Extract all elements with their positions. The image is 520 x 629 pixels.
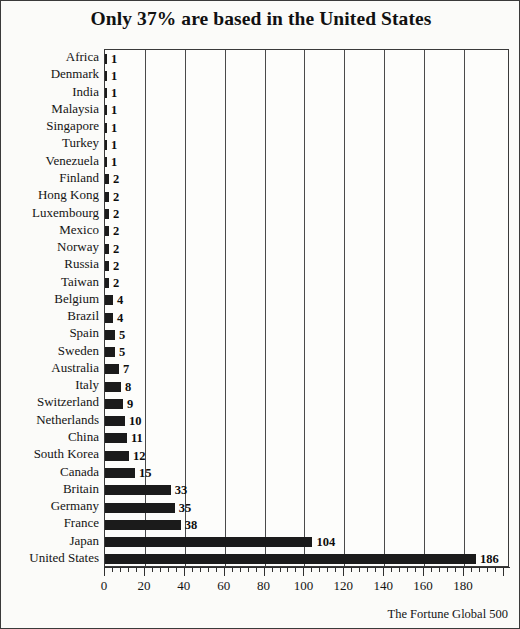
bar: [105, 554, 476, 564]
major-tick-160: [423, 567, 424, 576]
minor-tick-104: [311, 567, 312, 572]
x-tick-label-160: 160: [413, 578, 433, 594]
source-note: The Fortune Global 500: [388, 607, 508, 622]
bar-row: 104: [105, 533, 508, 551]
major-tick-180: [463, 567, 464, 576]
minor-tick-108: [319, 567, 320, 572]
minor-tick-44: [192, 567, 193, 572]
category-label: Brazil: [4, 310, 99, 322]
bar-value-label: 35: [179, 503, 192, 513]
minor-tick-32: [168, 567, 169, 572]
bar-value-label: 186: [480, 554, 499, 564]
bar: [105, 105, 107, 115]
x-tick-label-80: 80: [257, 578, 270, 594]
category-label: Russia: [4, 258, 99, 270]
minor-tick-152: [407, 567, 408, 572]
major-tick-40: [184, 567, 185, 576]
minor-tick-12: [128, 567, 129, 572]
minor-tick-144: [391, 567, 392, 572]
category-label: Denmark: [4, 68, 99, 80]
bar-value-label: 2: [113, 192, 119, 202]
bar-value-label: 1: [111, 105, 117, 115]
bar-row: 8: [105, 378, 508, 396]
x-tick-label-140: 140: [373, 578, 393, 594]
category-label: Taiwan: [4, 276, 99, 288]
category-label: Singapore: [4, 120, 99, 132]
bar-value-label: 1: [111, 71, 117, 81]
bar-value-label: 11: [131, 433, 143, 443]
bar-value-label: 1: [111, 123, 117, 133]
major-tick-100: [303, 567, 304, 576]
bar-value-label: 15: [139, 468, 152, 478]
minor-tick-192: [487, 567, 488, 572]
major-tick-200: [503, 567, 504, 576]
category-label: Malaysia: [4, 103, 99, 115]
category-label: Australia: [4, 362, 99, 374]
major-tick-120: [343, 567, 344, 576]
bar-row: 1: [105, 119, 508, 137]
bar-value-label: 2: [113, 174, 119, 184]
x-tick-label-20: 20: [137, 578, 150, 594]
bar-row: 38: [105, 516, 508, 534]
bar: [105, 209, 109, 219]
bar-value-label: 9: [127, 399, 133, 409]
category-label: Britain: [4, 483, 99, 495]
minor-tick-176: [455, 567, 456, 572]
bar: [105, 140, 107, 150]
bar: [105, 382, 121, 392]
x-tick-label-180: 180: [453, 578, 473, 594]
bar: [105, 468, 135, 478]
bar-row: 186: [105, 551, 508, 569]
minor-tick-48: [200, 567, 201, 572]
minor-tick-172: [447, 567, 448, 572]
bar-value-label: 8: [125, 382, 131, 392]
category-label: Netherlands: [4, 414, 99, 426]
x-axis-ticks: [104, 567, 510, 577]
bar-row: 2: [105, 223, 508, 241]
major-tick-20: [144, 567, 145, 576]
x-tick-label-60: 60: [217, 578, 230, 594]
bar-row: 5: [105, 326, 508, 344]
minor-tick-96: [295, 567, 296, 572]
bar: [105, 192, 109, 202]
bar: [105, 451, 129, 461]
bar: [105, 416, 125, 426]
minor-tick-84: [272, 567, 273, 572]
chart-figure: Only 37% are based in the United States …: [0, 0, 520, 629]
bar-value-label: 2: [113, 244, 119, 254]
chart-title: Only 37% are based in the United States: [1, 8, 520, 30]
bar-value-label: 1: [111, 54, 117, 64]
bar: [105, 503, 175, 513]
x-tick-label-120: 120: [334, 578, 354, 594]
minor-tick-116: [335, 567, 336, 572]
minor-tick-28: [160, 567, 161, 572]
bar-row: 33: [105, 482, 508, 500]
minor-tick-56: [216, 567, 217, 572]
minor-tick-188: [479, 567, 480, 572]
major-tick-60: [224, 567, 225, 576]
bar: [105, 244, 109, 254]
bar-row: 2: [105, 171, 508, 189]
category-label: Venezuela: [4, 155, 99, 167]
bar: [105, 261, 109, 271]
category-label: Switzerland: [4, 396, 99, 408]
category-label: Turkey: [4, 137, 99, 149]
bar: [105, 537, 312, 547]
bar-row: 12: [105, 447, 508, 465]
bar-value-label: 2: [113, 209, 119, 219]
bar: [105, 174, 109, 184]
bar: [105, 157, 107, 167]
bar: [105, 88, 107, 98]
major-tick-80: [264, 567, 265, 576]
bar-value-label: 2: [113, 261, 119, 271]
bar-value-label: 33: [175, 485, 188, 495]
category-label: Hong Kong: [4, 189, 99, 201]
bar-row: 2: [105, 257, 508, 275]
major-tick-0: [104, 567, 105, 576]
bar: [105, 278, 109, 288]
minor-tick-4: [112, 567, 113, 572]
bar-row: 1: [105, 102, 508, 120]
bar-row: 35: [105, 499, 508, 517]
minor-tick-8: [120, 567, 121, 572]
bar-row: 10: [105, 413, 508, 431]
